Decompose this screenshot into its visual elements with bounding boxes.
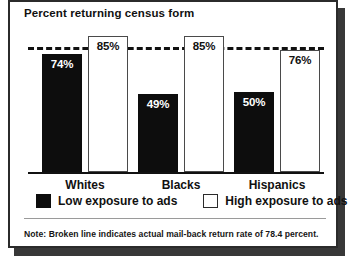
bar-whites-low[interactable]: 74% [42,54,82,172]
legend-swatch-high-icon [203,194,218,208]
bar-hispanics-low[interactable]: 50% [234,92,274,172]
bar-value-whites-low: 74% [43,58,81,70]
bar-value-whites-high: 85% [89,40,127,52]
bar-value-blacks-high: 85% [185,40,223,52]
bar-value-hispanics-low: 50% [235,96,273,108]
legend-label-low: Low exposure to ads [58,194,177,208]
bar-group-hispanics: 50% 76% Hispanics [234,32,318,172]
chart-note: Note: Broken line indicates actual mail-… [24,229,332,239]
bar-chart-plot-area: 74% 85% Whites 49% 85% Blacks [28,30,324,174]
bar-whites-high[interactable]: 85% [88,36,128,172]
figure-frame: Percent returning census form 74% 85% Wh… [8,0,338,248]
category-label-blacks: Blacks [138,178,224,192]
bar-group-whites: 74% 85% Whites [42,32,126,172]
x-axis [28,172,324,174]
bar-hispanics-high[interactable]: 76% [280,50,320,172]
legend-item-low-exposure[interactable]: Low exposure to ads [36,194,177,208]
note-divider [24,218,326,219]
bar-blacks-low[interactable]: 49% [138,94,178,172]
bar-group-blacks: 49% 85% Blacks [138,32,222,172]
legend-item-high-exposure[interactable]: High exposure to ads [203,194,347,208]
scanned-figure-page: Percent returning census form 74% 85% Wh… [0,0,349,273]
chart-legend: Low exposure to ads High exposure to ads [36,192,347,210]
category-label-whites: Whites [42,178,128,192]
legend-swatch-low-icon [36,194,51,208]
bar-value-blacks-low: 49% [139,98,177,110]
page-title: Percent returning census form [24,7,194,19]
bar-blacks-high[interactable]: 85% [184,36,224,172]
bar-value-hispanics-high: 76% [281,54,319,66]
category-label-hispanics: Hispanics [234,178,320,192]
legend-label-high: High exposure to ads [225,194,347,208]
